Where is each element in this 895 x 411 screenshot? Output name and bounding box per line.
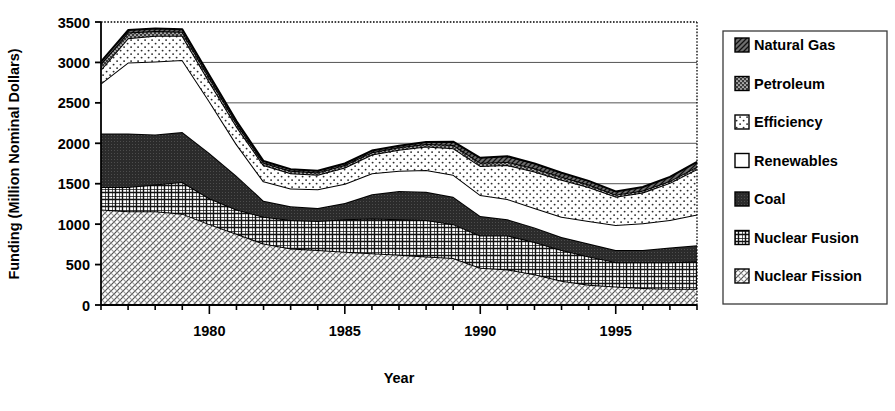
legend-label: Nuclear Fission bbox=[754, 268, 862, 284]
legend-item-nuclear-fission: Nuclear Fission bbox=[735, 268, 862, 284]
legend-swatch bbox=[735, 38, 749, 52]
x-tick-label: 1980 bbox=[193, 323, 225, 339]
legend-label: Natural Gas bbox=[754, 37, 835, 53]
y-tick-label: 500 bbox=[66, 257, 90, 273]
y-tick-label: 3500 bbox=[58, 15, 90, 31]
x-tick-label: 1985 bbox=[329, 323, 361, 339]
y-tick-label: 3000 bbox=[58, 55, 90, 71]
legend-label: Efficiency bbox=[754, 114, 823, 130]
x-tick-label: 1995 bbox=[600, 323, 632, 339]
legend-item-coal: Coal bbox=[735, 191, 785, 207]
x-tick-label: 1990 bbox=[464, 323, 496, 339]
legend-swatch bbox=[735, 269, 749, 283]
x-axis-ticks: 1980198519901995 bbox=[101, 305, 697, 339]
legend-label: Renewables bbox=[754, 153, 838, 169]
chart-legend: Natural GasPetroleumEfficiencyRenewables… bbox=[723, 31, 887, 304]
legend-label: Nuclear Fusion bbox=[754, 230, 859, 246]
legend-label: Petroleum bbox=[754, 76, 825, 92]
legend-item-efficiency: Efficiency bbox=[735, 114, 823, 130]
y-tick-label: 2500 bbox=[58, 95, 90, 111]
legend-swatch bbox=[735, 77, 749, 91]
legend-item-nuclear-fusion: Nuclear Fusion bbox=[735, 230, 859, 246]
x-axis-title: Year bbox=[384, 370, 415, 386]
y-tick-label: 0 bbox=[82, 298, 90, 314]
y-tick-label: 1000 bbox=[58, 217, 90, 233]
legend-swatch bbox=[735, 231, 749, 245]
legend-swatch bbox=[735, 115, 749, 129]
legend-swatch bbox=[735, 192, 749, 206]
stacked-area-chart: 0500100015002000250030003500 19801985199… bbox=[0, 0, 895, 411]
legend-swatch bbox=[735, 154, 749, 168]
y-tick-label: 1500 bbox=[58, 176, 90, 192]
y-axis-ticks: 0500100015002000250030003500 bbox=[58, 15, 101, 314]
chart-figure: 0500100015002000250030003500 19801985199… bbox=[0, 0, 895, 411]
legend-item-petroleum: Petroleum bbox=[735, 76, 825, 92]
y-axis-title: Funding (Million Nominal Dollars) bbox=[6, 48, 22, 279]
legend-label: Coal bbox=[754, 191, 785, 207]
y-tick-label: 2000 bbox=[58, 136, 90, 152]
